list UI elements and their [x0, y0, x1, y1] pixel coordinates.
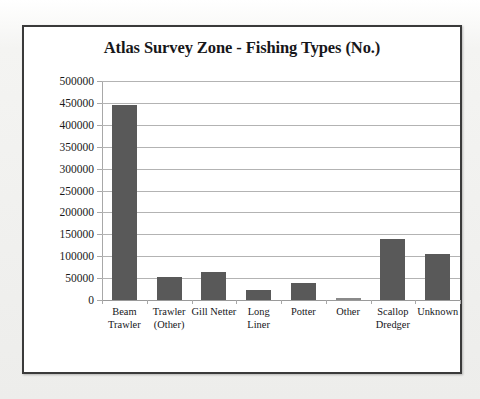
y-axis-tick-label: 50000: [65, 272, 94, 284]
x-axis-category-label: BeamTrawler: [102, 306, 147, 331]
y-axis-tick: [97, 212, 102, 213]
y-axis-tick-label: 400000: [60, 119, 95, 131]
y-axis-tick-label: 450000: [60, 97, 95, 109]
y-axis-tick: [97, 103, 102, 104]
x-axis-category-label: Trawler(Other): [147, 306, 192, 331]
bar: [112, 105, 137, 300]
x-axis-category-label: Unknown: [415, 306, 460, 319]
bar: [425, 254, 450, 300]
x-axis-category-label: Gill Netter: [192, 306, 237, 319]
y-axis-tick: [97, 234, 102, 235]
x-axis-tick: [460, 300, 461, 304]
gridline: [102, 212, 460, 213]
y-axis-tick-label: 250000: [60, 185, 95, 197]
plot-area: 5000004500004000003500003000002500002000…: [102, 81, 460, 300]
y-axis-tick: [97, 147, 102, 148]
chart-frame: Atlas Survey Zone - Fishing Types (No.) …: [22, 25, 462, 374]
gridline: [102, 191, 460, 192]
gridline: [102, 256, 460, 257]
y-axis-tick-label: 300000: [60, 163, 95, 175]
y-axis-tick: [97, 81, 102, 82]
y-axis-tick-label: 350000: [60, 141, 95, 153]
x-axis-tick: [326, 300, 327, 304]
x-axis-category-label: ScallopDredger: [371, 306, 416, 331]
x-axis-category-label-line: Gill Netter: [192, 306, 237, 319]
bar: [336, 298, 361, 300]
y-axis-tick: [97, 125, 102, 126]
x-axis-category-label-line: Liner: [236, 319, 281, 332]
x-axis-tick: [102, 300, 103, 304]
chart-title: Atlas Survey Zone - Fishing Types (No.): [24, 38, 460, 58]
bar: [157, 277, 182, 300]
gridline: [102, 169, 460, 170]
y-axis-tick-label: 100000: [60, 250, 95, 262]
gridline: [102, 81, 460, 82]
x-axis-category-label-line: Potter: [281, 306, 326, 319]
x-axis-tick: [281, 300, 282, 304]
x-axis-category-label-line: Unknown: [415, 306, 460, 319]
bar: [380, 239, 405, 300]
x-axis-tick: [371, 300, 372, 304]
x-axis-category-label-line: Trawler: [147, 306, 192, 319]
y-axis-tick: [97, 191, 102, 192]
y-axis-tick-label: 0: [88, 294, 94, 306]
y-axis-tick: [97, 256, 102, 257]
y-axis-tick: [97, 278, 102, 279]
bar: [201, 272, 226, 300]
x-axis-tick: [192, 300, 193, 304]
gridline: [102, 147, 460, 148]
y-axis-tick-label: 150000: [60, 228, 95, 240]
x-axis-tick: [415, 300, 416, 304]
x-axis-tick: [236, 300, 237, 304]
x-axis-category-label-line: Long: [236, 306, 281, 319]
gridline: [102, 103, 460, 104]
gridline: [102, 234, 460, 235]
x-axis-category-label-line: Scallop: [371, 306, 416, 319]
y-axis-tick-label: 200000: [60, 206, 95, 218]
y-axis-tick-label: 500000: [60, 75, 95, 87]
x-axis-labels: BeamTrawlerTrawler(Other)Gill NetterLong…: [102, 306, 460, 354]
x-axis-tick: [147, 300, 148, 304]
bar: [246, 290, 271, 300]
x-axis-category-label-line: Dredger: [371, 319, 416, 332]
x-axis-category-label-line: Trawler: [102, 319, 147, 332]
bar: [291, 283, 316, 300]
y-axis-tick: [97, 169, 102, 170]
x-axis-category-label: Potter: [281, 306, 326, 319]
x-axis-category-label-line: (Other): [147, 319, 192, 332]
x-axis-category-label-line: Other: [326, 306, 371, 319]
screenshot-page: Atlas Survey Zone - Fishing Types (No.) …: [0, 0, 480, 399]
x-axis-category-label-line: Beam: [102, 306, 147, 319]
x-axis-category-label: Other: [326, 306, 371, 319]
x-axis-category-label: LongLiner: [236, 306, 281, 331]
gridline: [102, 125, 460, 126]
